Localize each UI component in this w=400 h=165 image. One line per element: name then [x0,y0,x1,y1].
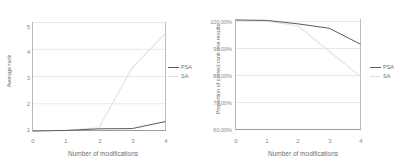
figure-two-line-charts: Average rank 5 4 3 2 1 0 1 2 3 4 Number … [0,0,400,165]
plot-area-proportion-correct-rank-one [235,19,361,131]
legend-average-rank: PSA SA [168,63,192,81]
y-tick-label: 2 [18,101,30,107]
x-tick-label: 2 [93,138,107,144]
x-tick-label: 2 [291,138,305,144]
x-axis-label: Number of modifications [238,150,368,157]
x-tick-label: 1 [260,138,274,144]
chart-panel-average-rank: Average rank 5 4 3 2 1 0 1 2 3 4 Number … [0,0,200,165]
legend-item-sa[interactable]: SA [370,72,394,81]
y-tick-label: 60.00% [202,128,232,134]
plot-area-average-rank [32,22,166,132]
series-line-sa [33,33,166,131]
x-tick-label: 3 [126,138,140,144]
x-tick-label: 0 [229,138,243,144]
y-tick-label: 5 [18,24,30,30]
legend-item-sa[interactable]: SA [168,72,192,81]
legend-label-sa: SA [383,74,390,80]
legend-item-psa[interactable]: PSA [168,63,192,72]
legend-label-sa: SA [181,74,188,80]
chart-panel-proportion-correct-rank-one: Proportion of correct rank one results 1… [200,0,400,165]
y-axis-label: Average rank [6,48,12,94]
x-tick-label: 3 [323,138,337,144]
x-tick-label: 1 [59,138,73,144]
legend-label-psa: PSA [181,65,192,71]
y-tick-label: 100.00% [202,20,232,26]
legend-swatch-sa-icon [370,76,381,77]
series-line-psa [236,20,361,44]
legend-swatch-sa-icon [168,76,179,77]
y-tick-label: 90.00% [202,47,232,53]
x-tick-label: 0 [26,138,40,144]
legend-swatch-psa-icon [168,67,179,68]
x-tick-label: 4 [159,138,173,144]
legend-proportion-correct-rank-one: PSA SA [370,63,394,81]
legend-item-psa[interactable]: PSA [370,63,394,72]
x-tick-label: 4 [354,138,368,144]
y-tick-label: 3 [18,75,30,81]
y-tick-label: 80.00% [202,74,232,80]
series-line-psa [33,122,166,131]
x-axis-label: Number of modifications [38,150,168,157]
legend-swatch-psa-icon [370,67,381,68]
legend-label-psa: PSA [383,65,394,71]
y-tick-label: 4 [18,49,30,55]
y-tick-label: 1 [18,127,30,133]
y-tick-label: 70.00% [202,101,232,107]
